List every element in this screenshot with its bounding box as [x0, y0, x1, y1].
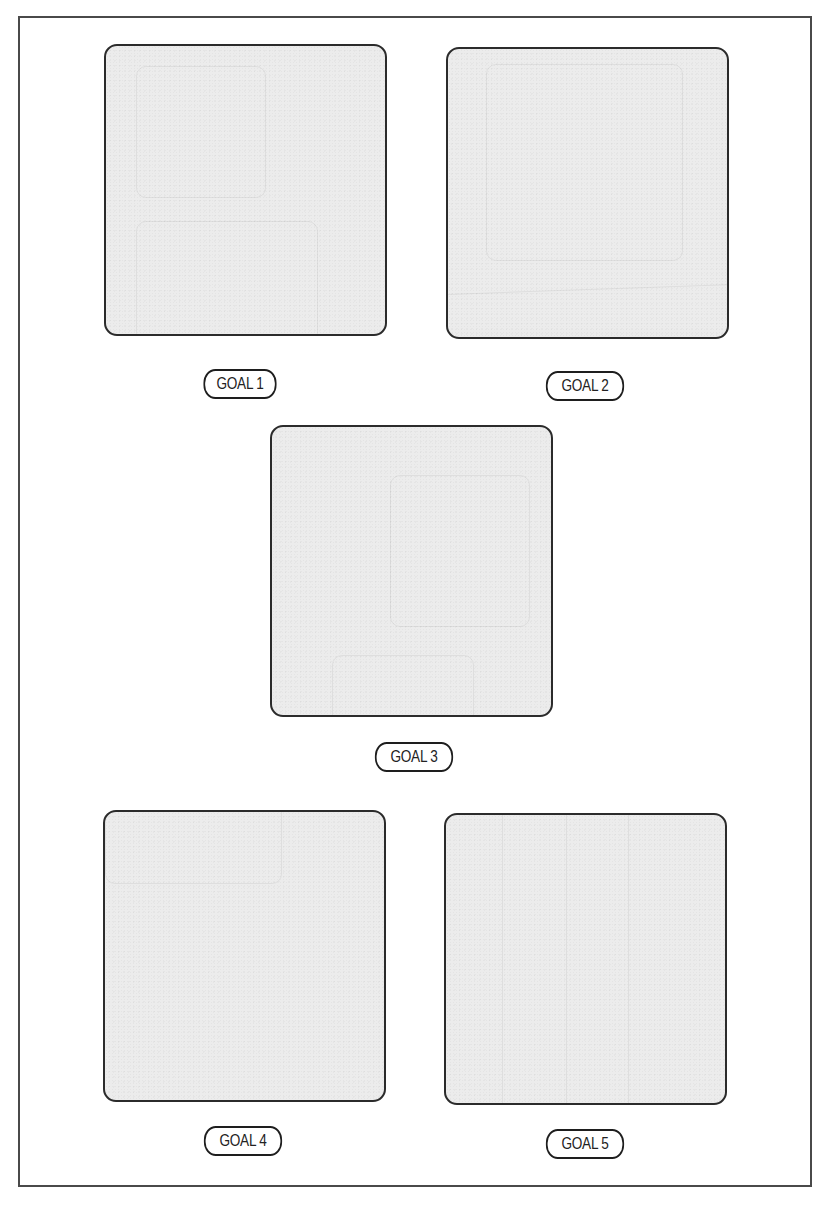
goal-1-panel	[104, 44, 387, 336]
goal-1-faint-lower-frame	[136, 221, 318, 336]
goal-3-panel	[270, 425, 553, 717]
goal-1-label: GOAL 1	[203, 369, 276, 399]
goal-4-label: GOAL 4	[204, 1126, 282, 1156]
goal-2-label: GOAL 2	[546, 371, 624, 401]
goal-2-faint-inner-frame	[486, 64, 683, 261]
goal-4-panel	[103, 810, 386, 1102]
goal-3-label: GOAL 3	[375, 742, 453, 772]
goal-2-panel	[446, 47, 729, 339]
goal-5-faint-vertical-line-1	[502, 815, 503, 1105]
goal-1-faint-inner-frame	[136, 66, 266, 198]
goal-5-panel	[444, 813, 727, 1105]
goal-2-faint-baseline	[448, 284, 729, 295]
goal-4-faint-inner-frame	[105, 810, 282, 884]
goal-3-faint-inner-frame	[390, 475, 530, 627]
goal-5-faint-vertical-line-2	[566, 815, 567, 1105]
goal-3-faint-lower-frame	[332, 655, 474, 717]
goal-5-faint-vertical-line-3	[628, 815, 629, 1105]
goal-5-label: GOAL 5	[546, 1129, 624, 1159]
